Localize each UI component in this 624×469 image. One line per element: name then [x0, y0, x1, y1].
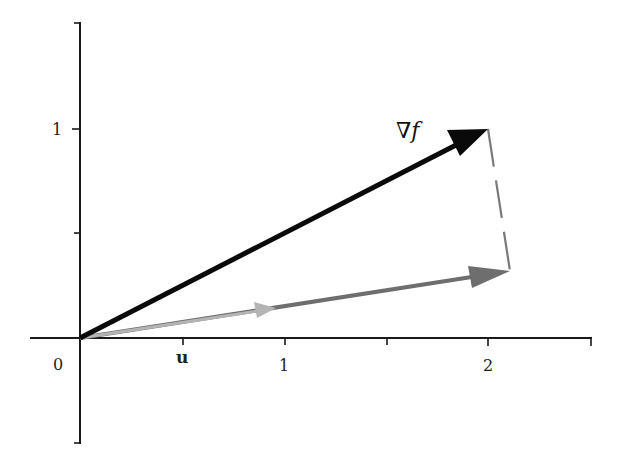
unit-vector-label: u — [176, 347, 188, 367]
y-axis — [72, 22, 80, 444]
projection-arrowhead-icon — [468, 266, 510, 288]
x-axis — [30, 338, 592, 346]
gradient-arrowhead-icon — [447, 129, 488, 156]
unit-vector — [80, 302, 276, 338]
origin-label: 0 — [53, 355, 63, 374]
vector-diagram: 0 1 2 1 ∇f u — [0, 0, 624, 469]
projection-dashed-line — [488, 129, 510, 271]
y-tick-label-1: 1 — [52, 120, 62, 139]
gradient-label: ∇f — [396, 118, 423, 143]
x-tick-label-1: 1 — [279, 356, 289, 375]
x-tick-label-2: 2 — [483, 356, 493, 375]
